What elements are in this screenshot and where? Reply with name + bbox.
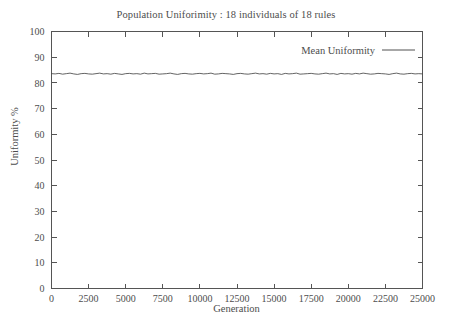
x-tick-label: 22500 — [373, 293, 398, 304]
y-tick-label: 90 — [35, 52, 45, 63]
chart-container: Population Uniforimity : 18 individuals … — [0, 0, 452, 327]
plot-border — [52, 32, 423, 289]
y-axis-ticks: 0102030405060708090100 — [30, 26, 423, 294]
y-tick-label: 20 — [35, 232, 45, 243]
x-tick-label: 15000 — [262, 293, 287, 304]
data-series — [52, 73, 423, 74]
x-tick-label: 7500 — [153, 293, 173, 304]
series-line — [52, 73, 423, 74]
y-tick-label: 50 — [35, 155, 45, 166]
y-tick-label: 80 — [35, 78, 45, 89]
x-tick-label: 0 — [49, 293, 54, 304]
y-tick-label: 60 — [35, 129, 45, 140]
y-tick-label: 30 — [35, 206, 45, 217]
y-tick-label: 100 — [30, 26, 45, 37]
plot-area: 0102030405060708090100 02500500075001000… — [0, 0, 452, 327]
x-tick-label: 17500 — [299, 293, 324, 304]
x-tick-label: 2500 — [79, 293, 99, 304]
y-tick-label: 40 — [35, 180, 45, 191]
x-tick-label: 25000 — [410, 293, 435, 304]
x-tick-label: 12500 — [225, 293, 250, 304]
plot-frame — [52, 32, 423, 289]
x-tick-label: 5000 — [116, 293, 136, 304]
x-tick-label: 20000 — [336, 293, 361, 304]
x-tick-label: 10000 — [187, 293, 212, 304]
legend-label: Mean Uniformity — [301, 45, 376, 56]
y-tick-label: 0 — [40, 283, 45, 294]
chart-legend: Mean Uniformity — [301, 45, 415, 56]
y-tick-label: 10 — [35, 257, 45, 268]
x-axis-ticks: 0250050007500100001250015000175002000022… — [49, 32, 435, 304]
y-tick-label: 70 — [35, 103, 45, 114]
